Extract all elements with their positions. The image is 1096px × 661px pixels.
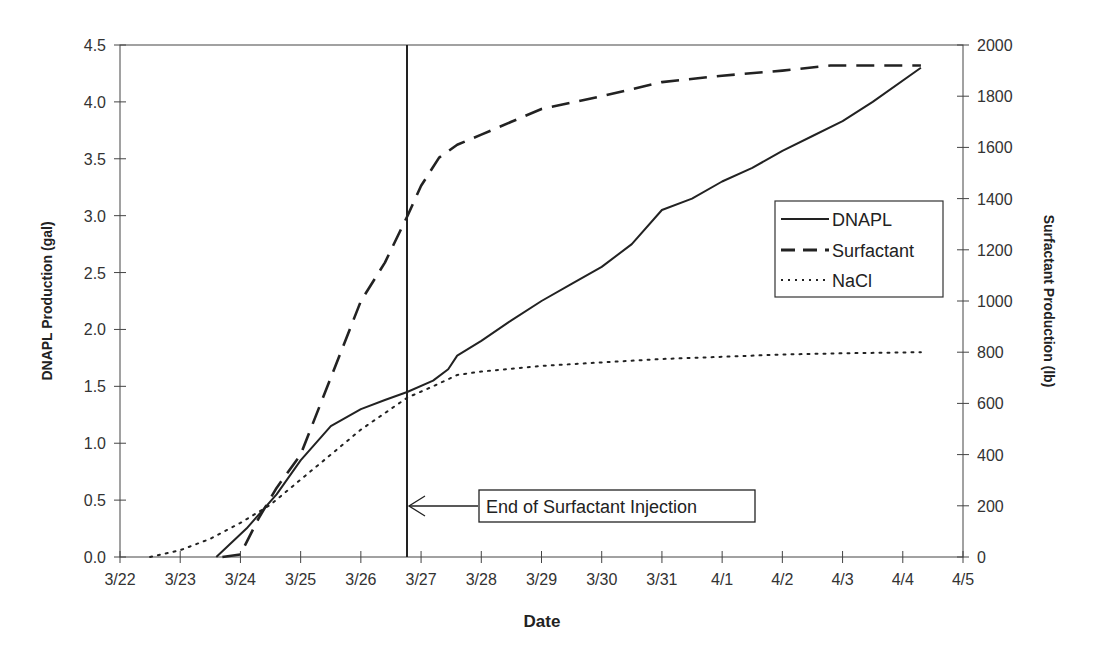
end-injection-marker: End of Surfactant Injection [407,45,755,557]
y2-tick-label: 800 [977,344,1004,361]
y2-tick-label: 1400 [977,191,1013,208]
legend-label-nacl: NaCl [832,271,872,291]
chart: 3/223/233/243/253/263/273/283/293/303/31… [0,0,1096,661]
x-tick-label: 3/30 [586,571,617,588]
y-tick-label: 2.0 [84,321,106,338]
y-axis-right: 0200400600800100012001400160018002000 [957,37,1013,566]
x-tick-label: 3/29 [526,571,557,588]
y2-tick-label: 1600 [977,139,1013,156]
x-axis-title: Date [524,612,561,631]
y2-tick-label: 1200 [977,242,1013,259]
legend-label-dnapl: DNAPL [832,210,892,230]
y2-tick-label: 1800 [977,88,1013,105]
x-tick-label: 3/27 [406,571,437,588]
legend-label-surfactant: Surfactant [832,241,914,261]
y-tick-label: 0.0 [84,549,106,566]
y-tick-label: 4.0 [84,94,106,111]
y2-tick-label: 2000 [977,37,1013,54]
x-tick-label: 4/2 [771,571,793,588]
y-tick-label: 3.0 [84,208,106,225]
x-tick-label: 3/28 [466,571,497,588]
y2-tick-label: 1000 [977,293,1013,310]
y-tick-label: 4.5 [84,37,106,54]
x-tick-label: 3/25 [285,571,316,588]
y2-tick-label: 600 [977,395,1004,412]
y2-tick-label: 200 [977,498,1004,515]
y-tick-label: 0.5 [84,492,106,509]
y2-tick-label: 400 [977,447,1004,464]
x-tick-label: 4/4 [892,571,914,588]
series-surfactant [222,66,921,558]
x-tick-label: 4/1 [711,571,733,588]
x-tick-label: 3/31 [646,571,677,588]
y-tick-label: 1.0 [84,435,106,452]
series-nacl [150,352,921,557]
y2-tick-label: 0 [977,549,986,566]
x-tick-label: 3/22 [104,571,135,588]
x-tick-label: 4/3 [831,571,853,588]
y-tick-label: 3.5 [84,151,106,168]
x-tick-label: 3/24 [225,571,256,588]
x-tick-label: 4/5 [952,571,974,588]
y-tick-label: 1.5 [84,378,106,395]
y-tick-label: 2.5 [84,265,106,282]
series-dnapl [216,68,921,557]
series-lines [150,66,921,558]
x-tick-label: 3/26 [345,571,376,588]
x-tick-label: 3/23 [165,571,196,588]
legend: DNAPL Surfactant NaCl [775,201,943,297]
y-axis-left-title: DNAPL Production (gal) [39,221,55,380]
annotation-label: End of Surfactant Injection [486,497,697,517]
y-axis-right-title: Surfactant Production (lb) [1041,215,1057,388]
